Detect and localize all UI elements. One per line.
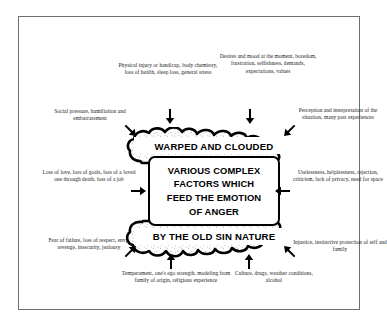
core-line-1: VARIOUS COMPLEX: [168, 164, 260, 178]
factor-desires: Desires and mood at the moment, boredom,…: [219, 53, 317, 75]
core-line-2: FACTORS WHICH: [174, 177, 254, 191]
arrow-down-icon-desires: [242, 109, 258, 125]
diagram-frame: WARPED AND CLOUDED BY THE OLD SIN NATURE…: [18, 16, 360, 310]
factor-fear: Fear of failure, loss of respect, envy, …: [41, 237, 137, 252]
core-line-3: FEED THE EMOTION: [167, 191, 261, 205]
factor-injustice: Injustice, instinctive protection of sel…: [293, 239, 387, 254]
factor-perception: Perception and interpretation of the sit…: [291, 107, 385, 122]
factor-physical: Physical injury or handicap, body chemis…: [114, 62, 222, 77]
top-cloud-label: WARPED AND CLOUDED: [124, 141, 304, 152]
factor-temperament: Temperament, one's ego strength, modelin…: [119, 270, 233, 285]
core-line-4: OF ANGER: [189, 205, 239, 219]
factor-culture: Culture, drugs, weather conditions, alco…: [231, 270, 317, 285]
factor-loss: Loss of love, loss of goals, loss of a l…: [41, 169, 137, 184]
core-statement-box: VARIOUS COMPLEX FACTORS WHICH FEED THE E…: [148, 156, 280, 226]
factor-social-pressure: Social pressure, humiliation and embarra…: [47, 108, 133, 123]
bottom-cloud-label: BY THE OLD SIN NATURE: [124, 231, 304, 242]
arrow-down-icon-physical: [162, 109, 178, 125]
factor-uselessness: Uselessness, helplessness, rejection, cr…: [291, 169, 385, 184]
